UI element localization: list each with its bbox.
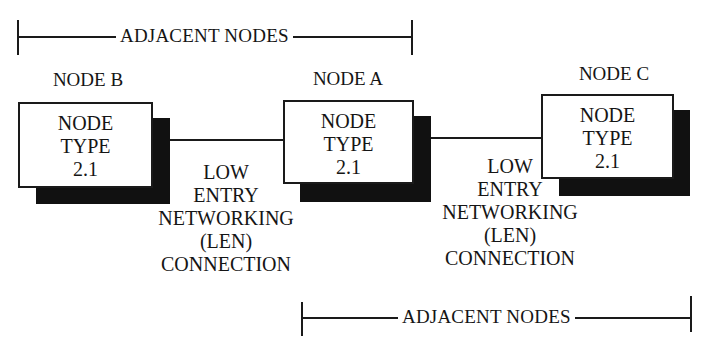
len-1-line-5: CONNECTION: [158, 253, 294, 276]
node-a-line-3: 2.1: [336, 156, 361, 179]
node-a-line-1: NODE: [321, 110, 377, 133]
top-bracket-right-tick: [411, 20, 413, 55]
len-connection-label-b-a: LOW ENTRY NETWORKING (LEN) CONNECTION: [158, 161, 294, 276]
bottom-bracket-right-tick: [690, 296, 692, 332]
len-1-line-4: (LEN): [158, 230, 294, 253]
node-b-title: NODE B: [53, 69, 123, 91]
node-a-title: NODE A: [313, 68, 383, 90]
len-1-line-2: ENTRY: [158, 184, 294, 207]
len-connection-label-a-c: LOW ENTRY NETWORKING (LEN) CONNECTION: [442, 155, 578, 270]
bottom-bracket-left-tick: [301, 302, 303, 336]
len-2-line-3: NETWORKING: [442, 201, 578, 224]
node-c-line-1: NODE: [580, 104, 636, 127]
len-2-line-5: CONNECTION: [442, 247, 578, 270]
len-2-line-4: (LEN): [442, 224, 578, 247]
node-c-line-3: 2.1: [595, 150, 620, 173]
len-2-line-1: LOW: [442, 155, 578, 178]
node-a-box: NODE TYPE 2.1: [283, 100, 414, 184]
len-1-line-3: NETWORKING: [158, 207, 294, 230]
node-b-box: NODE TYPE 2.1: [18, 102, 153, 188]
node-b-line-2: TYPE: [61, 135, 111, 158]
connection-line-a-c: [425, 137, 543, 139]
node-b-line-1: NODE: [58, 112, 114, 135]
node-c-title: NODE C: [579, 63, 649, 85]
node-a-line-2: TYPE: [324, 133, 374, 156]
len-2-line-2: ENTRY: [442, 178, 578, 201]
top-bracket-label: ADJACENT NODES: [116, 25, 293, 47]
node-c-line-2: TYPE: [583, 127, 633, 150]
bottom-bracket-label: ADJACENT NODES: [398, 306, 575, 328]
connection-line-b-a: [165, 139, 285, 141]
len-1-line-1: LOW: [158, 161, 294, 184]
node-b-line-3: 2.1: [73, 158, 98, 181]
